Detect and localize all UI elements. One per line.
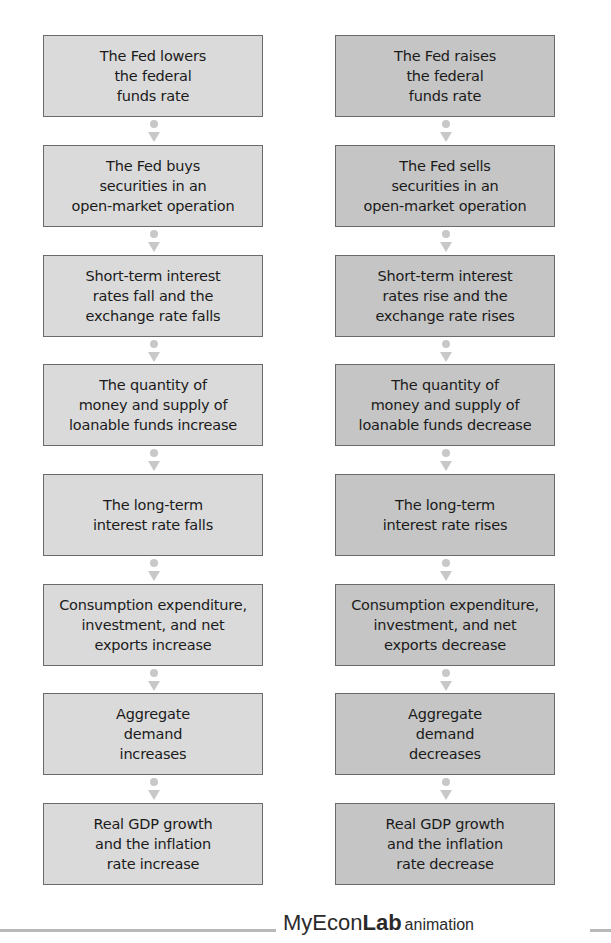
flow-box-label: The long-term interest rate rises — [383, 495, 508, 535]
down-arrow-icon — [146, 557, 162, 583]
flow-box-label: Real GDP growth and the inflation rate i… — [93, 814, 212, 874]
flow-box-label: The quantity of money and supply of loan… — [359, 375, 532, 435]
flow-box-label: The Fed sells securities in an open-mark… — [364, 156, 527, 216]
flow-box-left-2: The Fed buys securities in an open-marke… — [43, 145, 263, 227]
flow-box-left-7: Aggregate demand increases — [43, 693, 263, 775]
down-arrow-icon — [438, 447, 454, 473]
flow-box-label: The quantity of money and supply of loan… — [69, 375, 237, 435]
down-arrow-icon — [146, 338, 162, 364]
flow-box-right-2: The Fed sells securities in an open-mark… — [335, 145, 555, 227]
flow-box-label: The long-term interest rate falls — [93, 495, 213, 535]
down-arrow-icon — [438, 118, 454, 144]
flow-box-label: The Fed buys securities in an open-marke… — [72, 156, 235, 216]
brand-prefix: MyEcon — [283, 910, 362, 935]
footer-rule-right — [590, 929, 611, 932]
flow-box-left-3: Short-term interest rates fall and the e… — [43, 255, 263, 337]
flow-box-label: Short-term interest rates rise and the e… — [375, 266, 514, 326]
flow-box-left-5: The long-term interest rate falls — [43, 474, 263, 556]
flow-box-right-3: Short-term interest rates rise and the e… — [335, 255, 555, 337]
flow-box-label: The Fed lowers the federal funds rate — [100, 46, 206, 106]
flow-box-label: Aggregate demand decreases — [408, 704, 482, 764]
flow-box-label: Real GDP growth and the inflation rate d… — [385, 814, 504, 874]
down-arrow-icon — [438, 338, 454, 364]
down-arrow-icon — [438, 667, 454, 693]
myeconlab-animation-link[interactable]: MyEconLabanimation — [283, 910, 474, 936]
down-arrow-icon — [438, 557, 454, 583]
flow-box-label: The Fed raises the federal funds rate — [394, 46, 496, 106]
down-arrow-icon — [146, 667, 162, 693]
down-arrow-icon — [146, 447, 162, 473]
flow-box-left-8: Real GDP growth and the inflation rate i… — [43, 803, 263, 885]
down-arrow-icon — [146, 776, 162, 802]
brand-suffix: animation — [405, 916, 474, 933]
down-arrow-icon — [438, 228, 454, 254]
down-arrow-icon — [146, 118, 162, 144]
flow-box-left-4: The quantity of money and supply of loan… — [43, 364, 263, 446]
footer-rule-left — [0, 929, 276, 932]
brand-bold: Lab — [362, 910, 401, 935]
flow-box-right-6: Consumption expenditure, investment, and… — [335, 584, 555, 666]
flow-box-right-4: The quantity of money and supply of loan… — [335, 364, 555, 446]
flow-box-right-7: Aggregate demand decreases — [335, 693, 555, 775]
down-arrow-icon — [438, 776, 454, 802]
flow-box-label: Short-term interest rates fall and the e… — [85, 266, 220, 326]
flow-box-left-1: The Fed lowers the federal funds rate — [43, 35, 263, 117]
flow-box-left-6: Consumption expenditure, investment, and… — [43, 584, 263, 666]
flow-box-label: Consumption expenditure, investment, and… — [351, 595, 539, 655]
flow-box-right-1: The Fed raises the federal funds rate — [335, 35, 555, 117]
down-arrow-icon — [146, 228, 162, 254]
flow-box-label: Aggregate demand increases — [116, 704, 190, 764]
flow-box-right-5: The long-term interest rate rises — [335, 474, 555, 556]
flow-box-right-8: Real GDP growth and the inflation rate d… — [335, 803, 555, 885]
flow-box-label: Consumption expenditure, investment, and… — [59, 595, 247, 655]
